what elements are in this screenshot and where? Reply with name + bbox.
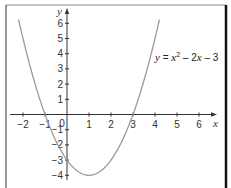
x-tick-label: 2 <box>108 119 114 130</box>
axes <box>10 8 217 180</box>
y-tick-label: 5 <box>57 33 63 44</box>
x-tick-label: 5 <box>174 119 180 130</box>
y-tick-label: 2 <box>57 79 63 90</box>
y-tick-label: −4 <box>52 170 64 181</box>
y-tick-label: 6 <box>57 18 63 29</box>
x-tick-label: 1 <box>86 119 92 130</box>
x-tick-label: −1 <box>39 119 51 130</box>
y-tick-label: 1 <box>57 94 63 105</box>
y-tick-label: 3 <box>57 63 63 74</box>
y-tick-label: 4 <box>57 48 63 59</box>
y-tick-label: −1 <box>52 124 64 135</box>
parabola-chart: −2−10123456−4−3−2−1123456 x y y = x2 – 2… <box>0 0 231 188</box>
tick-labels: −2−10123456−4−3−2−1123456 <box>17 18 202 181</box>
x-axis-label: x <box>212 117 218 129</box>
parabola-curve <box>19 20 160 176</box>
y-tick-label: −3 <box>52 155 64 166</box>
x-tick-label: 6 <box>196 119 202 130</box>
equation-label: y = x2 – 2x – 3 <box>154 51 219 63</box>
x-tick-label: 4 <box>152 119 158 130</box>
y-axis-label: y <box>56 5 62 17</box>
x-tick-label: −2 <box>17 119 29 130</box>
y-axis-arrow-icon <box>65 8 69 14</box>
